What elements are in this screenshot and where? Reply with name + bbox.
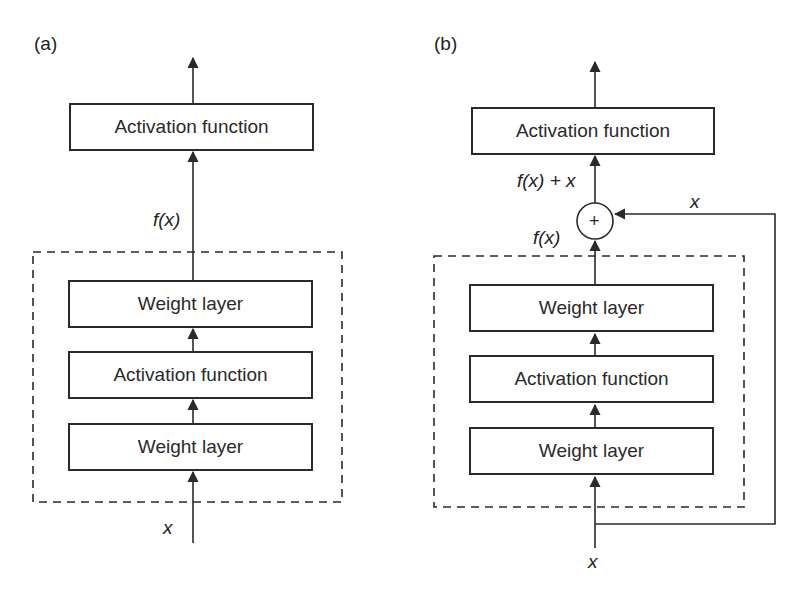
a-weight-layer-top: Weight layer [68,280,313,328]
panel-b-label: (b) [434,34,457,53]
b-weight-layer-top: Weight layer [469,284,714,332]
b-weight-layer-bottom: Weight layer [469,427,714,475]
b-input-x-label: x [588,552,598,571]
panel-a-label: (a) [34,34,57,53]
a-activation-function-box: Activation function [68,351,313,399]
b-top-activation-box: Activation function [471,107,715,155]
b-fx-label: f(x) [533,228,560,247]
a-top-activation-box: Activation function [69,103,314,151]
b-adder-plus-icon: + [589,212,600,230]
b-sum-label: f(x) + x [517,171,576,190]
b-activation-function-box: Activation function [469,355,714,403]
a-input-x-label: x [163,518,173,537]
b-skip-x-label: x [690,192,700,211]
a-fx-label: f(x) [153,210,180,229]
a-weight-layer-bottom: Weight layer [68,423,313,471]
